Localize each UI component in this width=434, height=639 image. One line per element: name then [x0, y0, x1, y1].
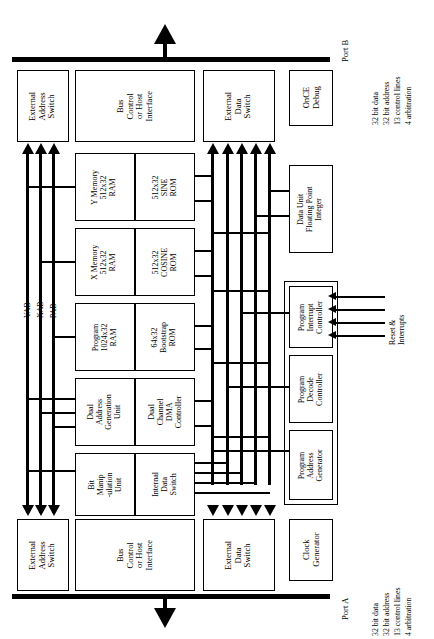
port-a-arrow-down-icon: [154, 608, 176, 628]
block-bootstrap-rom[interactable]: 64x32 Bootstrap ROM: [135, 303, 195, 371]
conn-cosinerom-databus-2: [195, 275, 212, 277]
conn-yab-bitmanip: [26, 470, 76, 472]
xab-bus-line: [39, 153, 42, 513]
port-b-spec-1: 32 bit address: [383, 82, 392, 125]
block-sine-rom[interactable]: 512x32 SINE ROM: [135, 153, 195, 221]
reset-interrupt-line-1: [333, 296, 385, 298]
block-label: Bus Control or Host Interface: [116, 91, 155, 122]
reset-interrupt-arrow-icon-3: [328, 318, 336, 326]
conn-dma-databus-1: [195, 400, 212, 402]
data-bus-arrow-up-icon-2: [222, 143, 234, 154]
block-label: External Address Switch: [29, 91, 58, 120]
yab-bus-line: [26, 153, 29, 513]
block-label: Internal Data Switch: [152, 472, 179, 497]
reset-interrupt-arrow-icon-4: [328, 331, 336, 339]
conn-pab-programram: [52, 336, 76, 338]
block-external-data-switch-top[interactable]: External Data Switch: [203, 70, 275, 142]
pab-arrow-up-icon: [48, 143, 60, 154]
block-label: Program Decode Controller: [298, 373, 325, 406]
block-label: 512x32 SINE ROM: [152, 175, 179, 199]
block-label: Program Interrupt Controller: [298, 301, 325, 334]
conn-bootstraprom-databus-2: [195, 348, 212, 350]
block-x-memory-ram[interactable]: X Memory 512x32 RAM: [75, 228, 135, 296]
block-label: Y Memory 512x32 RAM: [92, 169, 119, 204]
xab-arrow-down-icon: [35, 505, 47, 516]
conn-idswitch-databus-3: [195, 482, 255, 484]
block-dual-channel-dma-controller[interactable]: Dual Channel DMA Controller: [135, 378, 195, 446]
block-label: Program 1024x32 RAM: [92, 323, 119, 351]
data-bus-arrow-down-icon-3: [236, 505, 248, 516]
block-program-address-generator[interactable]: Program Address Generator: [289, 430, 333, 500]
block-external-address-switch-top[interactable]: External Address Switch: [17, 70, 69, 142]
conn-sinerom-databus-2: [195, 200, 212, 202]
block-once-debug[interactable]: OnCE Debug: [289, 70, 333, 126]
bus-matrix-rail-3: [211, 362, 269, 364]
conn-idswitch-databus-2: [195, 472, 241, 474]
pab-label: PAB: [50, 304, 59, 318]
block-external-data-switch-bottom[interactable]: External Data Switch: [203, 519, 275, 591]
block-bus-control-host-interface-top[interactable]: Bus Control or Host Interface: [75, 70, 195, 142]
conn-databus-addrgen: [211, 450, 290, 452]
port-a-spec-2: 13 control lines: [394, 587, 403, 636]
block-cosine-rom[interactable]: 512x32 COSINE ROM: [135, 228, 195, 296]
data-bus-arrow-up-icon-3: [236, 143, 248, 154]
conn-databus-dataunit-2: [254, 215, 290, 217]
block-label: Dual Address Generation Unit: [87, 394, 123, 430]
port-a-bus-bar: [12, 594, 330, 599]
block-program-decode-controller[interactable]: Program Decode Controller: [289, 355, 333, 423]
block-label: OnCE Debug: [301, 87, 320, 110]
data-bus-arrow-down-icon-2: [222, 505, 234, 516]
conn-dma-databus-2: [195, 425, 212, 427]
conn-pab-agu: [52, 426, 76, 428]
block-bit-manipulation-unit[interactable]: Bit Manip -ulation Unit: [75, 453, 135, 516]
conn-xab-agu: [39, 412, 76, 414]
block-clock-generator[interactable]: Clock Generator: [289, 519, 333, 581]
data-bus-arrow-up-icon-1: [207, 143, 219, 154]
block-label: External Address Switch: [29, 540, 58, 569]
conn-yab-agu: [26, 398, 76, 400]
port-b-arrow-up-icon: [154, 24, 176, 44]
port-a-spec-3: 4 arbitration: [405, 598, 414, 636]
port-a-spec-1: 32 bit address: [383, 593, 392, 636]
block-label: Bit Manip -ulation Unit: [87, 472, 123, 497]
yab-arrow-down-icon: [22, 505, 34, 516]
port-b-spec-0: 32 bit data: [372, 92, 381, 125]
conn-idswitch-databus-4: [195, 492, 270, 494]
block-label: Program Address Generator: [298, 449, 325, 481]
block-y-memory-ram[interactable]: Y Memory 512x32 RAM: [75, 153, 135, 221]
conn-databus-interruptctrl: [240, 312, 290, 314]
port-b-bus-bar: [12, 57, 330, 62]
block-bus-control-host-interface-bottom[interactable]: Bus Control or Host Interface: [75, 519, 195, 591]
reset-interrupt-line-2: [333, 309, 385, 311]
port-a-label: Port A: [341, 598, 351, 620]
bus-matrix-rail-1: [211, 232, 269, 234]
block-dual-address-generation-unit[interactable]: Dual Address Generation Unit: [75, 378, 135, 446]
data-bus-arrow-up-icon-4: [250, 143, 262, 154]
block-program-ram[interactable]: Program 1024x32 RAM: [75, 303, 135, 371]
block-label: Bus Control or Host Interface: [116, 540, 155, 571]
block-label: 512x32 COSINE ROM: [152, 248, 179, 277]
yab-arrow-up-icon: [22, 143, 34, 154]
conn-cosinerom-databus-1: [195, 250, 212, 252]
block-external-address-switch-bottom[interactable]: External Address Switch: [17, 519, 69, 591]
block-label: Data Unit Floating Point Integer: [298, 186, 325, 232]
block-label: Clock Generator: [301, 533, 320, 567]
conn-databus-decodectrl: [226, 386, 290, 388]
block-data-unit-floating-point-integer[interactable]: Data Unit Floating Point Integer: [289, 165, 333, 253]
data-bus-arrow-up-icon-5: [264, 143, 276, 154]
data-bus-arrow-down-icon-4: [250, 505, 262, 516]
bus-matrix-rail-2: [211, 290, 269, 292]
conn-xab-xmemory: [39, 261, 76, 263]
block-label: External Data Switch: [225, 91, 254, 120]
xab-arrow-up-icon: [35, 143, 47, 154]
reset-interrupts-label: Reset & Interrupts: [389, 315, 407, 345]
port-b-label: Port B: [341, 40, 351, 62]
xab-label: XAB: [37, 302, 46, 318]
dsp-block-diagram: Port B 32 bit data 32 bit address 13 con…: [0, 0, 434, 639]
conn-yab-ymemory: [26, 186, 76, 188]
block-program-interrupt-controller[interactable]: Program Interrupt Controller: [289, 286, 333, 348]
conn-sinerom-databus-1: [195, 175, 212, 177]
port-b-bus-stub: [163, 42, 167, 60]
block-internal-data-switch[interactable]: Internal Data Switch: [135, 453, 195, 516]
data-bus-arrow-down-icon-5: [264, 505, 276, 516]
